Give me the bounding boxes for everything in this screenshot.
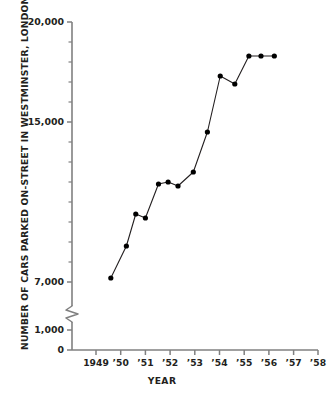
x-axis-title: YEAR [0, 375, 324, 386]
y-tick-label: 1,000 [14, 324, 64, 335]
y-tick-label: 15,000 [14, 116, 64, 127]
y-tick-label: 0 [14, 344, 64, 355]
y-tick-label: 7,000 [14, 276, 64, 287]
y-tick-label: 20,000 [14, 16, 64, 27]
x-tick-label: ’58 [298, 357, 331, 368]
